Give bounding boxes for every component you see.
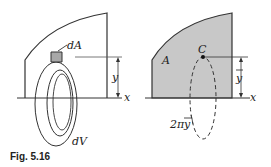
ybar-arrow-bottom <box>239 93 243 98</box>
left-panel <box>17 13 122 146</box>
figure-canvas: dA dV y x A C y x 2π y Fig. 5.16 <box>0 0 271 167</box>
right-panel <box>145 13 250 139</box>
centroid-label: C <box>198 43 207 56</box>
area-label: A <box>161 54 170 67</box>
y-label: y <box>111 71 119 84</box>
path-label-prefix: 2π <box>169 118 185 131</box>
ring-inner <box>47 70 73 136</box>
dA-leader <box>58 45 67 51</box>
dV-label: dV <box>72 135 88 148</box>
figure-caption: Fig. 5.16 <box>10 151 50 162</box>
y-arrow-top <box>116 57 120 62</box>
path-label-var: y <box>183 118 191 131</box>
path-label-leader <box>191 115 193 124</box>
ybar-arrow-top <box>239 57 243 62</box>
dA-label: dA <box>67 39 82 52</box>
x-axis-label-right: x <box>250 91 257 104</box>
y-arrow-bottom <box>116 93 120 98</box>
ybar-label: y <box>235 72 243 85</box>
dA-element <box>51 52 62 62</box>
ring-inner-2 <box>53 74 71 130</box>
x-axis-label: x <box>124 91 131 104</box>
